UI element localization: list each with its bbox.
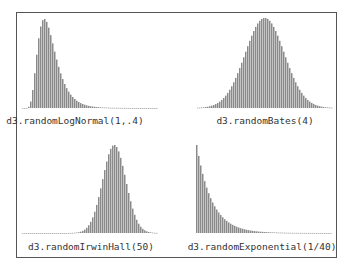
histogram-bar [258,232,260,233]
histogram-bar [304,233,306,234]
histogram-bar [224,219,226,233]
histogram-bar [152,108,154,109]
histogram-bar [310,233,312,234]
histogram-bar [268,232,270,233]
histogram-bar [98,197,100,233]
histogram-bar [301,93,303,108]
histogram-bar [26,233,28,234]
histogram-bar [142,108,144,109]
histogram-bar [124,175,126,233]
histogram-bar [245,52,247,108]
histogram-bar [210,198,212,233]
histogram-bar [228,222,230,233]
histogram-bar [225,96,227,108]
histogram-bar [108,108,110,109]
histogram-bar [90,222,92,233]
histogram-bar [142,229,144,233]
histogram-bar [255,27,257,108]
histogram-bar [140,108,142,109]
histogram-bar [114,108,116,109]
histogram-bar [214,206,216,233]
panel-lognormal [22,19,158,109]
histogram-bar [62,79,64,108]
histogram-bar [122,166,124,233]
histogram-bar [276,233,278,234]
histogram-bar [211,106,213,108]
histogram-bar [217,103,219,108]
histogram-bar [249,41,251,108]
histogram-bar [156,108,158,109]
histograms-figure: d3.randomLogNormal(1,.4) d3.randomBates(… [0,0,353,276]
histogram-bar [120,158,122,233]
histogram-bar [208,193,210,233]
histogram-bar [62,233,64,234]
histogram-bar [200,165,202,233]
histogram-bar [282,233,284,234]
histogram-bar [74,233,76,234]
histogram-bar [76,233,78,234]
histogram-bar [198,156,200,233]
histogram-bar [260,232,262,233]
histogram-bar [130,201,132,233]
histogram-bar [106,108,108,109]
histogram-bar [206,188,208,233]
histogram-bar [287,63,289,108]
histogram-bar [116,147,118,233]
panel-bates [197,18,333,108]
histogram-bar [126,184,128,233]
histogram-bar [232,225,234,233]
histogram-bar [202,174,204,233]
histogram-bar [54,52,56,108]
histogram-bar [98,107,100,108]
histogram-bar [112,146,114,233]
histogram-bar [112,108,114,109]
histogram-bar [88,225,90,233]
histogram-bar [299,90,301,108]
histogram-bar [148,232,150,233]
histogram-bar [265,18,267,108]
histogram-bar [82,104,84,108]
histogram-bar [116,108,118,109]
histogram-bar [303,96,305,108]
histogram-bar [294,233,296,234]
histogram-bar [128,193,130,233]
histogram-bar [118,108,120,109]
histogram-bar [122,108,124,109]
histogram-bar [84,105,86,108]
histogram-bar [106,162,108,233]
histogram-bar [327,107,329,108]
histogram-bar [50,35,52,108]
histogram-bar [220,215,222,233]
histogram-bar [295,82,297,108]
histogram-bar [46,233,48,234]
histogram-bar [132,108,134,109]
histogram-bar [257,23,259,108]
histogram-bar [48,233,50,234]
histogram-bar [218,212,220,233]
histogram-bar [24,233,26,234]
histogram-bar [74,99,76,108]
histogram-bar [313,104,315,108]
histogram-bar [291,73,293,108]
histogram-bar [70,233,72,234]
histogram-bar [152,233,154,234]
histogram-bar [96,205,98,233]
histogram-bar [300,233,302,234]
histogram-bar [256,231,258,233]
histogram-bar [306,233,308,234]
histogram-bar [72,233,74,234]
histogram-bar [108,154,110,233]
histogram-bar [216,210,218,233]
histogram-bar [259,21,261,108]
histogram-bar [100,107,102,108]
histogram-bar [331,108,333,109]
histogram-bar [238,228,240,233]
histogram-bar [246,230,248,233]
histogram-bar [138,224,140,233]
histogram-bar [22,233,24,234]
histogram-bar [128,108,130,109]
histogram-bar [323,107,325,108]
histogram-bar [317,106,319,108]
histogram-bar [118,151,120,233]
histogram-bar [279,41,281,108]
